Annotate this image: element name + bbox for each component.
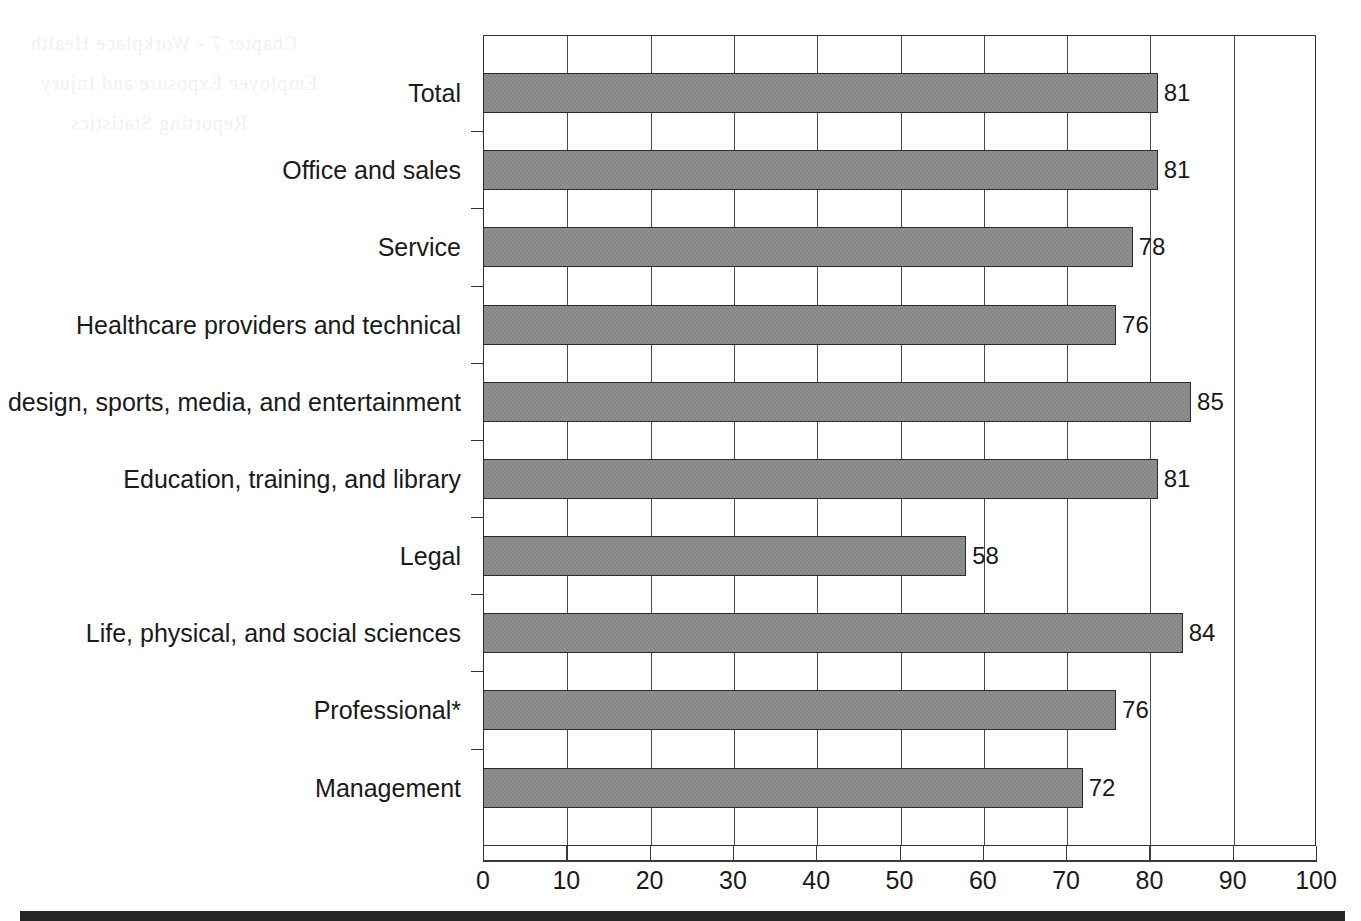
category-label-arts: Arts, design, sports, media, and enterta… <box>0 382 461 422</box>
category-label-management: Management <box>315 768 461 808</box>
bar-arts-design-sports-media-entertainment[interactable] <box>483 382 1191 422</box>
category-axis-tick <box>471 594 483 595</box>
x-axis-label-90: 90 <box>1219 866 1247 895</box>
bar-value-education-training-and-library: 81 <box>1164 467 1191 491</box>
bar-education-training-and-library[interactable] <box>483 459 1158 499</box>
bar-value-service: 78 <box>1139 235 1166 259</box>
category-axis-tick <box>471 440 483 441</box>
bar-row[interactable]: 81 <box>483 459 1316 499</box>
x-axis-tick-30 <box>733 846 734 861</box>
category-axis-tick <box>471 671 483 672</box>
bar-row[interactable]: 76 <box>483 305 1316 345</box>
x-axis-label-100: 100 <box>1295 866 1337 895</box>
category-label-professional: Professional* <box>314 690 461 730</box>
x-axis-tick-10 <box>566 846 567 861</box>
bar-value-healthcare-providers-and-technical: 76 <box>1122 313 1149 337</box>
bar-value-life-physical-and-social-sciences: 84 <box>1189 621 1216 645</box>
category-label-legal: Legal <box>400 536 461 576</box>
x-axis-tick-80 <box>1149 846 1150 861</box>
bar-management[interactable] <box>483 768 1083 808</box>
x-axis-tick-0 <box>483 846 484 861</box>
category-label-total: Total <box>408 73 461 113</box>
bar-value-office-and-sales: 81 <box>1164 158 1191 182</box>
category-label-life-sciences: Life, physical, and social sciences <box>86 613 461 653</box>
bar-row[interactable]: 84 <box>483 613 1316 653</box>
category-label-office-sales: Office and sales <box>282 150 461 190</box>
bar-row[interactable]: 78 <box>483 227 1316 267</box>
bar-healthcare-providers-and-technical[interactable] <box>483 305 1116 345</box>
x-axis-label-70: 70 <box>1052 866 1080 895</box>
bar-legal[interactable] <box>483 536 966 576</box>
category-axis-tick <box>471 208 483 209</box>
x-axis-label-20: 20 <box>636 866 664 895</box>
bar-value-professional: 76 <box>1122 698 1149 722</box>
x-axis-label-60: 60 <box>969 866 997 895</box>
category-label-education: Education, training, and library <box>123 459 461 499</box>
bar-office-and-sales[interactable] <box>483 150 1158 190</box>
bar-value-management: 72 <box>1089 776 1116 800</box>
bar-row[interactable]: 72 <box>483 768 1316 808</box>
bar-total[interactable] <box>483 73 1158 113</box>
x-axis-tick-40 <box>816 846 817 861</box>
category-axis-tick <box>471 517 483 518</box>
x-axis-tick-60 <box>983 846 984 861</box>
bar-value-arts-design-sports-media-entertainment: 85 <box>1197 390 1224 414</box>
x-axis-label-80: 80 <box>1135 866 1163 895</box>
x-axis-label-40: 40 <box>802 866 830 895</box>
bar-row[interactable]: 58 <box>483 536 1316 576</box>
bar-row[interactable]: 76 <box>483 690 1316 730</box>
x-axis-tick-90 <box>1233 846 1234 861</box>
category-axis-tick <box>471 131 483 132</box>
bar-row[interactable]: 81 <box>483 73 1316 113</box>
category-axis-tick <box>471 749 483 750</box>
x-axis-label-50: 50 <box>886 866 914 895</box>
x-axis-label-0: 0 <box>476 866 490 895</box>
category-label-healthcare: Healthcare providers and technical <box>76 305 461 345</box>
x-axis-tick-50 <box>900 846 901 861</box>
page-bottom-rule <box>20 911 1345 921</box>
bar-life-physical-and-social-sciences[interactable] <box>483 613 1183 653</box>
chart-page: Chapter 7 - Workplace Health Employee Ex… <box>0 0 1361 921</box>
category-axis-tick <box>471 363 483 364</box>
x-axis-label-30: 30 <box>719 866 747 895</box>
category-label-service: Service <box>378 227 461 267</box>
category-axis-tick <box>471 286 483 287</box>
bar-value-total: 81 <box>1164 81 1191 105</box>
x-axis-tick-100 <box>1316 846 1317 861</box>
bar-value-legal: 58 <box>972 544 999 568</box>
bar-row[interactable]: 85 <box>483 382 1316 422</box>
bar-series-layer: 81 81 78 76 85 81 58 84 <box>483 35 1316 846</box>
bar-professional[interactable] <box>483 690 1116 730</box>
category-axis-labels: Total Office and sales Service Healthcar… <box>0 35 473 846</box>
bar-row[interactable]: 81 <box>483 150 1316 190</box>
x-axis-tick-70 <box>1066 846 1067 861</box>
bar-service[interactable] <box>483 227 1133 267</box>
x-axis-label-10: 10 <box>552 866 580 895</box>
x-axis-tick-20 <box>650 846 651 861</box>
